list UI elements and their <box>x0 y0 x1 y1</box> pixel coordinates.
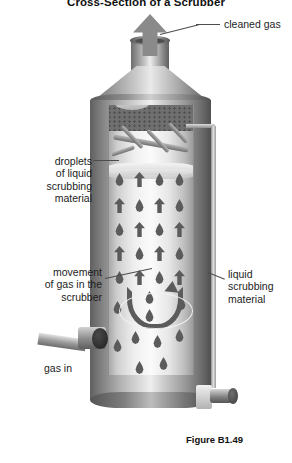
vessel-interior-cutaway <box>108 105 194 375</box>
gas-up-arrow <box>154 246 165 261</box>
gas-up-arrow <box>114 246 125 261</box>
droplet <box>115 223 124 236</box>
gas-inlet-bore <box>92 328 108 349</box>
droplet <box>135 247 144 260</box>
vessel-base <box>90 392 211 408</box>
leader-droplets <box>93 160 119 161</box>
leader-cleaned-gas <box>196 24 220 25</box>
droplet <box>175 247 184 260</box>
gas-up-arrow <box>134 222 145 237</box>
gas-up-arrow <box>114 198 125 213</box>
droplet <box>131 331 140 344</box>
droplet <box>113 339 122 352</box>
label-liquid: liquid scrubbing material <box>228 268 290 305</box>
gas-movement-arrowhead <box>164 280 179 292</box>
droplet <box>159 357 168 370</box>
figure-canvas: Cross-Section of a Scrubber <box>0 0 292 463</box>
figure-title: Cross-Section of a Scrubber <box>0 0 292 8</box>
droplet <box>135 361 144 374</box>
droplet <box>135 199 144 212</box>
droplet <box>155 271 164 284</box>
gas-up-arrow <box>174 222 185 237</box>
swirl-ring <box>119 293 193 329</box>
droplet <box>175 199 184 212</box>
droplet <box>155 223 164 236</box>
label-droplets: droplets of liquid scrubbing material <box>6 155 92 205</box>
label-gas-in: gas in <box>44 362 94 374</box>
liquid-supply-line <box>211 126 216 388</box>
droplet <box>153 335 162 348</box>
droplet <box>115 271 124 284</box>
figure-caption: Figure B1.49 <box>186 434 243 445</box>
label-movement: movement of gas in the scrubber <box>2 266 102 303</box>
drain-valve-outlet <box>228 388 238 404</box>
label-cleaned-gas: cleaned gas <box>224 18 290 30</box>
droplet <box>175 329 184 342</box>
leader-cleaned-gas-diagonal <box>160 24 199 35</box>
gas-up-arrow <box>154 198 165 213</box>
spray-header-riser <box>111 145 135 156</box>
